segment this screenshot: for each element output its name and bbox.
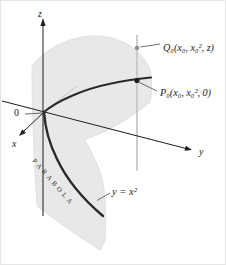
point-q0-label: Q₀(x₀, x₀², z) xyxy=(163,42,215,54)
parabolic-cylinder-figure: z y x 0 Q₀(x₀, x₀², z) P₀(x₀, x₀², 0) y … xyxy=(0,0,226,265)
x-axis-label: x xyxy=(11,138,17,149)
z-axis-arrowhead xyxy=(40,18,45,26)
figure-canvas: z y x 0 Q₀(x₀, x₀², z) P₀(x₀, x₀², 0) y … xyxy=(0,0,226,265)
point-p0-label: P₀(x₀, x₀², 0) xyxy=(159,87,212,99)
origin-label: 0 xyxy=(14,107,19,118)
point-q0-dot xyxy=(135,46,140,51)
y-axis-label: y xyxy=(198,146,204,157)
z-axis-label: z xyxy=(37,8,42,19)
q0-leader-line xyxy=(141,44,161,47)
point-p0-dot xyxy=(134,78,139,83)
y-axis-arrowhead xyxy=(185,146,193,151)
equation-label: y = x² xyxy=(111,186,138,197)
